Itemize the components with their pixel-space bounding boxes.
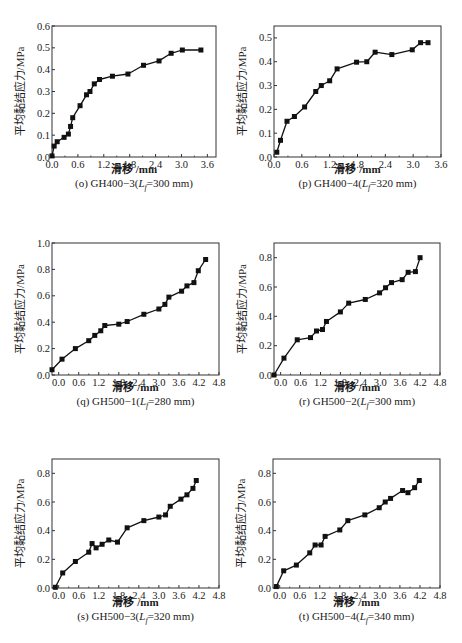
y-tick-label: 0.6 [258, 497, 271, 508]
x-tick-label: 3.6 [393, 590, 406, 601]
y-tick-label: 0.2 [258, 554, 271, 565]
data-point-marker [383, 500, 388, 505]
data-point-marker [377, 505, 382, 510]
data-series-line [276, 481, 419, 587]
x-tick-label: 0.0 [273, 590, 286, 601]
x-tick-label: 0.6 [293, 590, 306, 601]
x-tick-label: 4.8 [433, 590, 446, 601]
y-tick-label: 0.0 [258, 583, 271, 594]
data-point-marker [388, 496, 393, 501]
data-point-marker [294, 563, 299, 568]
data-point-marker [400, 488, 405, 493]
data-point-marker [313, 543, 318, 548]
data-point-marker [323, 534, 328, 539]
chart-caption-t: (t) GH500−4(Lf=340 mm) [277, 610, 437, 625]
data-point-marker [345, 518, 350, 523]
y-axis-title: 平均黏结应力/MPa [234, 478, 247, 568]
plot-frame [273, 459, 440, 588]
data-point-marker [412, 485, 417, 490]
y-tick-label: 0.4 [258, 525, 272, 536]
x-axis-title: 滑移 /mm [333, 595, 379, 608]
y-tick-label: 0.8 [258, 468, 271, 479]
data-point-marker [281, 568, 286, 573]
data-point-marker [319, 543, 324, 548]
data-point-marker [362, 512, 367, 517]
x-tick-label: 1.2 [313, 590, 326, 601]
data-point-marker [307, 550, 312, 555]
data-point-marker [417, 478, 422, 483]
x-tick-label: 4.2 [413, 590, 426, 601]
data-point-marker [274, 584, 279, 589]
data-point-marker [405, 490, 410, 495]
data-point-marker [337, 527, 342, 532]
